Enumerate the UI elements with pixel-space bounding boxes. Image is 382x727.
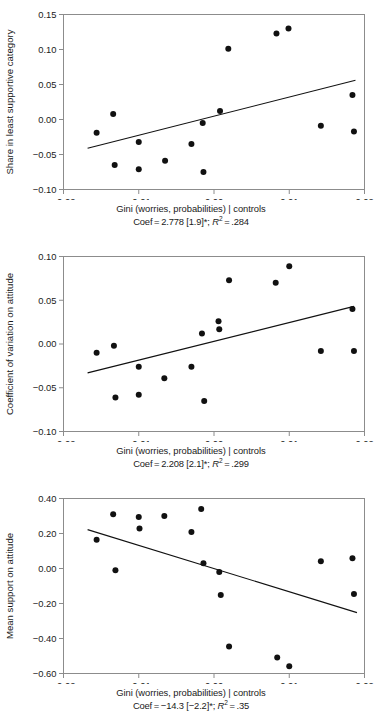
panel-2-plot: −0.02−0.010.000.010.020.100.050.00−0.05−… [0, 242, 382, 442]
data-point [351, 591, 357, 597]
data-point [110, 111, 116, 117]
x-tick-label: 0.01 [280, 438, 298, 443]
x-tick-label: −0.01 [127, 196, 151, 201]
data-point [285, 26, 291, 32]
data-point [200, 169, 206, 175]
y-tick-label: 0.15 [38, 9, 56, 20]
panel-3-coef-value: −14.3 [161, 700, 184, 711]
y-tick-label: −0.20 [33, 598, 57, 609]
data-point [218, 592, 224, 598]
y-tick-label: 0.10 [38, 251, 56, 262]
panel-1-xlabel: Gini (worries, probabilities) | controls [0, 203, 382, 214]
data-point [110, 511, 116, 517]
fit-line [88, 306, 354, 373]
y-tick-label: 0.00 [38, 114, 56, 125]
x-tick-label: −0.01 [127, 680, 151, 685]
x-tick-label: 0.02 [355, 196, 373, 201]
panel-2-r2-value: .299 [231, 458, 249, 469]
data-point [94, 537, 100, 543]
data-point [112, 394, 118, 400]
panel-2-coef-text: Coef = 2.208 [2.1]*; R2 = .299 [133, 458, 249, 469]
data-point [286, 663, 292, 669]
data-point [217, 108, 223, 114]
x-tick-label: 0.02 [355, 438, 373, 443]
y-tick-label: −0.10 [33, 426, 57, 437]
data-point [225, 46, 231, 52]
data-point [226, 643, 232, 649]
data-point [137, 526, 143, 532]
panel-1-subcaption: Coef = 2.778 [1.9]*; R2 = .284 [0, 216, 382, 227]
y-tick-label: 0.05 [38, 295, 56, 306]
panel-1-coef-value: 2.778 [161, 216, 184, 227]
data-point [351, 128, 357, 134]
plot-frame [64, 257, 365, 432]
y-axis-title: Mean support on attitude [4, 533, 15, 639]
data-point [136, 364, 142, 370]
panel-1: −0.02−0.010.000.010.020.150.100.050.00−0… [0, 0, 382, 242]
panel-2-sig: * [204, 458, 208, 469]
data-point [318, 348, 324, 354]
panel-1-coef-text: Coef = 2.778 [1.9]*; R2 = .284 [133, 216, 249, 227]
data-point [318, 558, 324, 564]
fit-line [88, 80, 356, 148]
data-point [188, 364, 194, 370]
x-tick-label: 0.02 [355, 680, 373, 685]
x-tick-label: 0.01 [280, 680, 298, 685]
data-point [349, 92, 355, 98]
x-tick-label: −0.02 [52, 196, 76, 201]
data-point [216, 318, 222, 324]
panel-2-coef-value: 2.208 [161, 458, 184, 469]
plot-frame [64, 15, 365, 190]
panel-2: −0.02−0.010.000.010.020.100.050.00−0.05−… [0, 242, 382, 484]
data-point [162, 158, 168, 164]
data-point [161, 513, 167, 519]
data-point [349, 306, 355, 312]
data-point [201, 398, 207, 404]
y-tick-label: −0.05 [33, 382, 57, 393]
x-tick-label: 0.01 [280, 196, 298, 201]
panel-3-tstat-value: −2.2 [189, 700, 207, 711]
panel-2-subcaption: Coef = 2.208 [2.1]*; R2 = .299 [0, 458, 382, 469]
data-point [198, 506, 204, 512]
y-tick-label: −0.05 [33, 149, 57, 160]
data-point [136, 392, 142, 398]
y-tick-label: 0.05 [38, 79, 56, 90]
x-tick-label: 0.00 [205, 680, 223, 685]
data-point [286, 263, 292, 269]
panel-2-tstat-value: 2.1 [189, 458, 202, 469]
x-tick-label: −0.02 [52, 680, 76, 685]
plot-frame [64, 499, 365, 674]
y-axis-title: Share in least supportive category [4, 29, 15, 174]
panel-3-r2-value: .35 [237, 700, 250, 711]
data-point [94, 130, 100, 136]
data-point [349, 555, 355, 561]
scatter-figure: −0.02−0.010.000.010.020.150.100.050.00−0… [0, 0, 382, 727]
panel-3-sig: * [209, 700, 213, 711]
data-point [351, 348, 357, 354]
data-point [112, 567, 118, 573]
panel-2-xlabel: Gini (worries, probabilities) | controls [0, 445, 382, 456]
panel-3-xlabel: Gini (worries, probabilities) | controls [0, 687, 382, 698]
panel-1-r2-value: .284 [231, 216, 249, 227]
x-tick-label: 0.00 [205, 196, 223, 201]
y-tick-label: 0.20 [38, 528, 56, 539]
x-tick-label: −0.01 [127, 438, 151, 443]
data-point [226, 277, 232, 283]
data-point [274, 654, 280, 660]
y-tick-label: −0.10 [33, 184, 57, 195]
data-point [112, 162, 118, 168]
data-point [216, 326, 222, 332]
data-point [94, 350, 100, 356]
panel-1-plot: −0.02−0.010.000.010.020.150.100.050.00−0… [0, 0, 382, 200]
y-tick-label: −0.40 [33, 633, 57, 644]
data-point [273, 30, 279, 36]
data-point [161, 375, 167, 381]
data-point [136, 514, 142, 520]
data-point [216, 569, 222, 575]
data-point [199, 331, 205, 337]
data-point [318, 123, 324, 129]
data-point [188, 529, 194, 535]
data-point [200, 120, 206, 126]
data-point [136, 166, 142, 172]
data-point [136, 139, 142, 145]
